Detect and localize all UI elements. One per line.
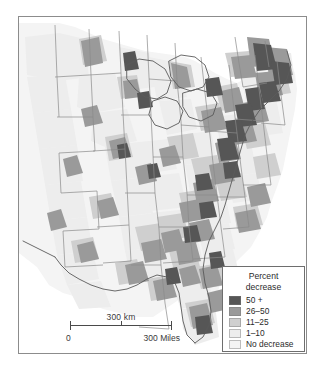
legend-swatch-50-plus (229, 296, 241, 305)
legend-item: 1–10 (229, 328, 304, 339)
scale-tick-start (70, 321, 71, 330)
legend-label: 11–25 (246, 318, 269, 327)
scale-zero-label: 0 (66, 333, 71, 343)
legend-label: No decrease (246, 340, 294, 349)
legend-item: 26–50 (229, 306, 304, 317)
legend-swatch-no-decrease (229, 340, 241, 349)
legend-title-line2: decrease (223, 282, 304, 293)
legend-swatch-11-25 (229, 318, 241, 327)
legend-label: 1–10 (246, 329, 265, 338)
scale-tick-mid (121, 321, 122, 326)
legend-label: 26–50 (246, 307, 269, 316)
scale-tick-end (171, 321, 172, 330)
legend-swatch-26-50 (229, 307, 241, 316)
map-legend: Percent decrease 50 + 26–50 11–25 1–10 (222, 266, 305, 352)
legend-label: 50 + (246, 296, 263, 305)
legend-title-line1: Percent (223, 271, 304, 282)
legend-item: 50 + (229, 295, 304, 306)
legend-items: 50 + 26–50 11–25 1–10 No decrease (223, 295, 304, 350)
legend-item: No decrease (229, 339, 304, 350)
scale-miles-label: 300 Miles (144, 333, 180, 343)
scale-bar: 300 km 0 300 Miles (66, 312, 176, 346)
map-figure: 300 km 0 300 Miles Percent decrease 50 +… (0, 0, 335, 388)
legend-swatch-1-10 (229, 329, 241, 338)
legend-item: 11–25 (229, 317, 304, 328)
legend-title: Percent decrease (223, 267, 304, 292)
